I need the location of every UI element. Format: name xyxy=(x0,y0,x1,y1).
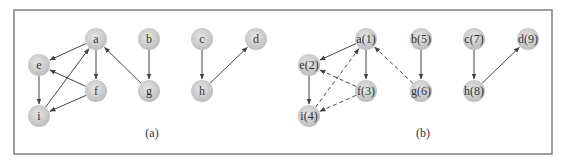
node-c: c(7) xyxy=(463,28,485,50)
edge-g-a-arrow xyxy=(105,47,142,83)
edge-h-d-arrow xyxy=(210,47,247,83)
node-label: i(4) xyxy=(300,109,317,123)
nodes-layer: abcdefghia(1)b(5)c(7)d(9)e(2)f(3)g(6)h(8… xyxy=(28,28,539,127)
node-label: e(2) xyxy=(299,58,318,72)
node-label: f xyxy=(94,84,98,98)
node-f: f xyxy=(85,80,107,102)
edge-a-e-arrow xyxy=(50,44,86,60)
node-label: b(5) xyxy=(411,32,431,46)
node-label: d(9) xyxy=(518,32,538,46)
node-c: c xyxy=(191,28,213,50)
edge-f-i-arrow xyxy=(50,95,86,111)
node-b: b(5) xyxy=(410,28,432,50)
node-b: b xyxy=(138,28,160,50)
node-label: c(7) xyxy=(464,32,483,46)
edge-i-a-arrow xyxy=(316,49,359,108)
node-a: a(1) xyxy=(355,28,377,50)
edge-h-d-arrow xyxy=(482,47,519,83)
node-a: a xyxy=(85,28,107,50)
node-g: g xyxy=(138,80,160,102)
node-h: h xyxy=(191,80,213,102)
node-label: f(3) xyxy=(357,84,375,98)
edge-g-a-arrow xyxy=(375,47,413,83)
node-d: d(9) xyxy=(517,28,539,50)
edge-f-e-arrow xyxy=(320,70,356,86)
node-e: e(2) xyxy=(298,54,320,76)
node-label: a xyxy=(93,32,99,46)
graph-figure: abcdefghia(1)b(5)c(7)d(9)e(2)f(3)g(6)h(8… xyxy=(0,0,567,165)
node-label: d xyxy=(253,32,259,46)
node-f: f(3) xyxy=(355,80,377,102)
node-label: g xyxy=(146,84,152,98)
node-label: h xyxy=(199,84,205,98)
node-i: i xyxy=(28,105,50,127)
node-label: b xyxy=(146,32,152,46)
node-label: a(1) xyxy=(356,32,375,46)
node-label: c xyxy=(199,32,204,46)
node-label: e xyxy=(36,58,41,72)
node-e: e xyxy=(28,54,50,76)
node-d: d xyxy=(245,28,267,50)
node-label: g(6) xyxy=(411,84,431,98)
panel-caption: (a) xyxy=(145,126,158,140)
node-h: h(8) xyxy=(463,80,485,102)
edges-layer xyxy=(39,44,519,112)
edge-a-e-arrow xyxy=(320,44,356,60)
node-i: i(4) xyxy=(298,105,320,127)
edge-f-e-arrow xyxy=(50,70,86,86)
node-label: h(8) xyxy=(464,84,484,98)
captions-layer: (a)(b) xyxy=(145,126,430,140)
panel-caption: (b) xyxy=(416,126,430,140)
edge-f-i-arrow xyxy=(320,95,356,111)
node-g: g(6) xyxy=(410,80,432,102)
